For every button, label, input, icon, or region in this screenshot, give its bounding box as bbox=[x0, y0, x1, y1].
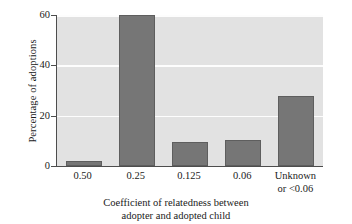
x-axis-tick-label: Unknown or <0.06 bbox=[269, 170, 322, 195]
bar bbox=[172, 142, 208, 166]
bar-series bbox=[57, 15, 323, 166]
x-axis-line bbox=[55, 166, 323, 167]
x-axis-tick-label: 0.125 bbox=[162, 170, 215, 183]
bar bbox=[119, 15, 155, 166]
bar bbox=[225, 140, 261, 166]
y-axis-tick-labels: 0204060 bbox=[24, 0, 50, 224]
bar bbox=[278, 96, 314, 166]
y-axis-tick-label: 60 bbox=[24, 10, 50, 20]
plot-area bbox=[56, 15, 323, 166]
x-axis-tick-label: 0.25 bbox=[109, 170, 162, 183]
x-axis-tick-label: 0.06 bbox=[216, 170, 269, 183]
y-axis-tick-label: 20 bbox=[24, 111, 50, 121]
bar-chart-figure: Percentage of adoptions 0204060 0.500.25… bbox=[0, 0, 352, 224]
y-axis-tick-label: 0 bbox=[24, 161, 50, 171]
x-axis-tick-label: 0.50 bbox=[56, 170, 109, 183]
x-axis-title: Coefficient of relatedness between adopt… bbox=[46, 196, 306, 222]
y-axis-tick-label: 40 bbox=[24, 60, 50, 70]
